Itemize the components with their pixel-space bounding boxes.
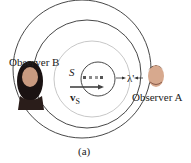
velocity-label: vS	[70, 92, 80, 106]
observer-a-face-icon	[148, 65, 164, 87]
wavefront-second	[33, 20, 141, 128]
source-dots-icon	[83, 76, 103, 79]
observer-b-label: Observer B	[9, 57, 59, 68]
observer-a-label: Observer A	[132, 92, 182, 103]
doppler-diagram: Observer B Observer A S vS λ' (a)	[0, 0, 191, 163]
velocity-subscript: S	[76, 97, 80, 106]
wavelength-label: λ'	[127, 73, 134, 84]
velocity-arrow-icon	[70, 85, 104, 90]
wavefronts-svg	[0, 0, 191, 163]
figure-caption: (a)	[78, 146, 90, 157]
observer-b-face-icon	[17, 61, 44, 110]
source-label: S	[69, 67, 75, 78]
